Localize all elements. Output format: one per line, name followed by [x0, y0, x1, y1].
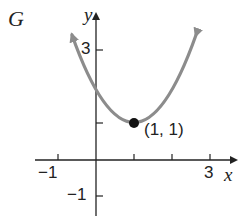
x-axis-label: x — [224, 164, 232, 186]
tick-label-y-neg1: −1 — [67, 185, 86, 205]
tick-label-x-neg1: −1 — [38, 163, 57, 183]
panel-label: G — [8, 6, 24, 32]
graph-canvas — [0, 0, 240, 219]
y-ticks — [96, 50, 103, 196]
vertex-point — [129, 118, 139, 128]
tick-label-x-3: 3 — [204, 163, 213, 183]
vertex-label: (1, 1) — [144, 120, 184, 140]
parabola-curve — [72, 35, 196, 123]
y-axis-label: y — [84, 4, 92, 26]
tick-label-y-3: 3 — [81, 39, 90, 59]
x-ticks — [58, 154, 210, 160]
